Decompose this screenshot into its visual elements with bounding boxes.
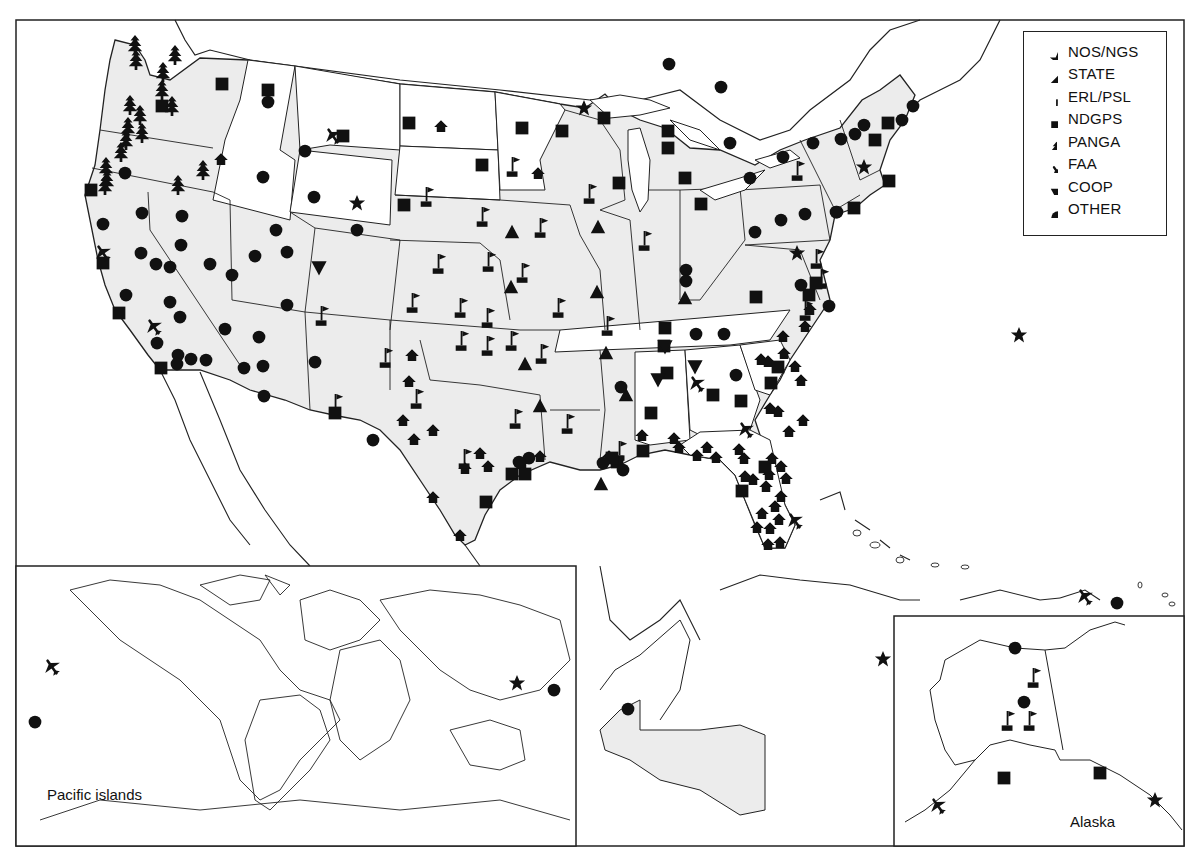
other-station-circle-icon <box>135 247 148 260</box>
ndgps-station-square-icon <box>155 362 168 375</box>
other-station-circle-icon <box>830 206 843 219</box>
pacific-islands-label: Pacific islands <box>47 786 142 803</box>
other-station-circle-icon <box>795 279 808 292</box>
alaska-inset <box>894 616 1184 846</box>
legend-item-ndgps: NDGPS <box>1038 108 1166 131</box>
other-station-circle-icon <box>176 210 189 223</box>
other-station-circle-icon <box>351 224 364 237</box>
other-station-circle-icon <box>597 457 610 470</box>
other-station-circle-icon <box>1018 696 1031 709</box>
ndgps-station-square-icon <box>869 134 882 147</box>
other-station-circle-icon <box>1009 642 1022 655</box>
other-station-circle-icon <box>174 311 187 324</box>
flag-icon <box>1038 87 1060 105</box>
other-station-circle-icon <box>257 360 270 373</box>
ndgps-station-square-icon <box>848 202 861 215</box>
ndgps-station-square-icon <box>645 407 658 420</box>
ndgps-station-square-icon <box>556 125 569 138</box>
other-station-circle-icon <box>615 381 628 394</box>
other-station-circle-icon <box>150 258 163 271</box>
ndgps-station-square-icon <box>516 122 529 135</box>
other-station-circle-icon <box>730 369 743 382</box>
ndgps-station-square-icon <box>998 772 1011 785</box>
ndgps-station-square-icon <box>659 322 672 335</box>
ndgps-station-square-icon <box>765 377 778 390</box>
other-station-circle-icon <box>690 328 703 341</box>
other-station-circle-icon <box>835 133 848 146</box>
ndgps-station-square-icon <box>216 78 229 91</box>
ndgps-station-square-icon <box>662 142 675 155</box>
legend-label: STATE <box>1068 65 1115 82</box>
station-network-map: NOS/NGS STATE ERL/PSL NDGPS PANGA FAA CO… <box>0 0 1200 866</box>
triangle-down-icon <box>1038 177 1060 195</box>
other-station-circle-icon <box>200 354 213 367</box>
legend-label: OTHER <box>1068 200 1122 217</box>
other-station-circle-icon <box>849 128 862 141</box>
legend-label: NOS/NGS <box>1068 43 1139 60</box>
other-station-circle-icon <box>896 114 909 127</box>
other-station-circle-icon <box>663 58 676 71</box>
ndgps-station-square-icon <box>679 172 692 185</box>
ndgps-station-square-icon <box>803 289 816 302</box>
legend-item-other: OTHER <box>1038 198 1166 221</box>
ndgps-station-square-icon <box>772 361 785 374</box>
other-station-circle-icon <box>270 224 283 237</box>
other-station-circle-icon <box>119 167 132 180</box>
other-station-circle-icon <box>281 246 294 259</box>
other-station-circle-icon <box>258 390 271 403</box>
other-station-circle-icon <box>513 456 526 469</box>
other-station-circle-icon <box>907 100 920 113</box>
legend-label: NDGPS <box>1068 110 1122 127</box>
other-station-circle-icon <box>807 137 820 150</box>
ndgps-station-square-icon <box>883 175 896 188</box>
legend-item-coop: COOP <box>1038 175 1166 198</box>
legend-item-faa: FAA <box>1038 153 1166 176</box>
legend-label: ERL/PSL <box>1068 88 1131 105</box>
other-station-circle-icon <box>777 151 790 164</box>
other-station-circle-icon <box>253 331 266 344</box>
legend-item-erl-psl: ERL/PSL <box>1038 85 1166 108</box>
ndgps-station-square-icon <box>735 395 748 408</box>
other-station-circle-icon <box>548 684 561 697</box>
ndgps-station-square-icon <box>113 307 126 320</box>
other-station-circle-icon <box>680 264 693 277</box>
other-station-circle-icon <box>858 119 871 132</box>
other-station-circle-icon <box>238 362 251 375</box>
other-station-circle-icon <box>715 81 728 94</box>
other-station-circle-icon <box>823 300 836 313</box>
ndgps-station-square-icon <box>750 291 763 304</box>
other-station-circle-icon <box>249 250 262 263</box>
ndgps-station-square-icon <box>759 461 772 474</box>
ndgps-station-square-icon <box>476 159 489 172</box>
other-station-circle-icon <box>680 275 693 288</box>
star-icon <box>1038 42 1060 60</box>
other-station-circle-icon <box>164 296 177 309</box>
other-station-circle-icon <box>120 289 133 302</box>
other-station-circle-icon <box>164 261 177 274</box>
ndgps-station-square-icon <box>480 496 493 509</box>
tree-icon <box>1038 132 1060 150</box>
ndgps-station-square-icon <box>810 277 823 290</box>
legend-label: COOP <box>1068 178 1113 195</box>
house-icon <box>1038 65 1060 83</box>
other-station-circle-icon <box>262 96 275 109</box>
ndgps-station-square-icon <box>85 184 98 197</box>
ndgps-station-square-icon <box>519 468 532 481</box>
ndgps-station-square-icon <box>637 445 650 458</box>
legend-label: FAA <box>1068 155 1097 172</box>
other-station-circle-icon <box>775 214 788 227</box>
other-station-circle-icon <box>185 353 198 366</box>
other-station-circle-icon <box>204 258 217 271</box>
other-station-circle-icon <box>219 323 232 336</box>
alaska-label: Alaska <box>1070 813 1115 830</box>
ndgps-station-square-icon <box>506 468 519 481</box>
other-station-circle-icon <box>799 208 812 221</box>
legend: NOS/NGS STATE ERL/PSL NDGPS PANGA FAA CO… <box>1023 31 1167 236</box>
other-station-circle-icon <box>175 239 188 252</box>
ndgps-station-square-icon <box>398 199 411 212</box>
other-station-circle-icon <box>281 299 294 312</box>
ndgps-station-square-icon <box>613 177 626 190</box>
legend-item-nos-ngs: NOS/NGS <box>1038 40 1166 63</box>
other-station-circle-icon <box>617 464 630 477</box>
other-station-circle-icon <box>744 172 757 185</box>
